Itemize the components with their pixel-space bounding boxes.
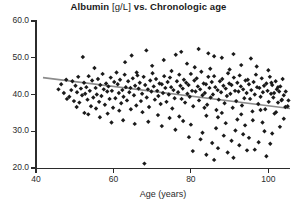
data-point xyxy=(129,107,133,111)
data-point xyxy=(231,156,235,160)
data-point xyxy=(94,106,98,110)
x-tick xyxy=(113,168,114,173)
data-point xyxy=(160,124,164,128)
data-point xyxy=(82,81,86,85)
data-point xyxy=(204,153,208,157)
data-point xyxy=(216,115,220,119)
data-point xyxy=(148,78,152,82)
data-point xyxy=(262,83,266,87)
data-point xyxy=(222,101,226,105)
data-point xyxy=(255,64,259,68)
data-point xyxy=(260,76,264,80)
data-point xyxy=(198,87,202,91)
data-point xyxy=(165,80,169,84)
data-point xyxy=(115,82,119,86)
data-point xyxy=(150,64,154,68)
data-point xyxy=(112,80,116,84)
data-point xyxy=(109,120,113,124)
chart-figure: Albumin [g/L] vs. Chronologic age 20.030… xyxy=(0,0,297,207)
data-point xyxy=(242,96,246,100)
data-point xyxy=(162,74,166,78)
data-point xyxy=(276,100,280,104)
data-point xyxy=(272,91,276,95)
data-point xyxy=(183,100,187,104)
data-point xyxy=(185,61,189,65)
data-point xyxy=(229,83,233,87)
data-point xyxy=(283,105,287,109)
data-point xyxy=(247,82,251,86)
data-point xyxy=(280,77,284,81)
data-point xyxy=(270,131,274,135)
data-point xyxy=(269,81,273,85)
data-point xyxy=(216,146,220,150)
data-point xyxy=(275,87,279,91)
data-point xyxy=(103,103,107,107)
data-point xyxy=(67,95,71,99)
data-point xyxy=(117,91,121,95)
data-point xyxy=(191,104,195,108)
data-point xyxy=(280,97,284,101)
data-point xyxy=(236,89,240,93)
data-point xyxy=(251,118,255,122)
data-point xyxy=(122,72,126,76)
data-point xyxy=(235,81,239,85)
data-point xyxy=(88,89,92,93)
data-point xyxy=(89,104,93,108)
data-point xyxy=(77,100,81,104)
data-point xyxy=(254,72,258,76)
data-point xyxy=(158,102,162,106)
data-point xyxy=(224,121,228,125)
data-point xyxy=(279,98,283,102)
data-point xyxy=(262,129,266,133)
data-point xyxy=(214,126,218,130)
data-point xyxy=(191,149,195,153)
data-point xyxy=(220,111,224,115)
data-point xyxy=(278,84,282,88)
data-point xyxy=(131,76,135,80)
data-point xyxy=(256,140,260,144)
data-point xyxy=(277,89,281,93)
data-point xyxy=(265,89,269,93)
data-point xyxy=(202,106,206,110)
data-point xyxy=(276,85,280,89)
data-point xyxy=(237,73,241,77)
data-point xyxy=(253,92,257,96)
data-point xyxy=(132,93,136,97)
data-point xyxy=(214,108,218,112)
data-point xyxy=(65,97,69,101)
data-point xyxy=(161,91,165,95)
data-point xyxy=(162,58,166,62)
data-point xyxy=(187,135,191,139)
data-point xyxy=(282,93,286,97)
data-point xyxy=(258,95,262,99)
data-point xyxy=(179,97,183,101)
data-point xyxy=(140,92,144,96)
data-point xyxy=(230,106,234,110)
data-point xyxy=(164,100,168,104)
data-point xyxy=(274,110,278,114)
data-point xyxy=(246,78,250,82)
data-point xyxy=(170,106,174,110)
data-point xyxy=(56,87,60,91)
data-point xyxy=(154,77,158,81)
data-point xyxy=(256,102,260,106)
data-point xyxy=(225,94,229,98)
data-point xyxy=(168,75,172,79)
data-point xyxy=(190,89,194,93)
data-point xyxy=(269,92,273,96)
data-point xyxy=(107,97,111,101)
data-point xyxy=(128,86,132,90)
data-point xyxy=(97,100,101,104)
data-point xyxy=(199,70,203,74)
data-point xyxy=(174,53,178,57)
y-tick xyxy=(31,57,36,58)
data-point xyxy=(241,132,245,136)
data-point xyxy=(163,86,167,90)
data-point xyxy=(73,83,77,87)
data-point xyxy=(134,70,138,74)
x-tick-label: 80 xyxy=(176,174,206,184)
data-point xyxy=(232,75,236,79)
data-point xyxy=(177,114,181,118)
data-point xyxy=(105,111,109,115)
data-point xyxy=(271,95,275,99)
